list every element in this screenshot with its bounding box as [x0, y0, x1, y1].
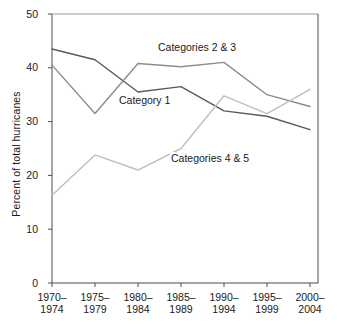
x-tick-label-line: 2000– — [282, 292, 337, 304]
x-tick-label: 2000–2004 — [282, 292, 337, 315]
series-annotation: Category 1 — [118, 94, 171, 106]
x-tick-label-line: 2004 — [282, 304, 337, 316]
series-annotation: Categories 2 & 3 — [157, 41, 237, 53]
series-annotation: Categories 4 & 5 — [170, 152, 250, 164]
hurricane-category-line-chart: Percent of total hurricanes 01020304050 … — [0, 0, 337, 326]
